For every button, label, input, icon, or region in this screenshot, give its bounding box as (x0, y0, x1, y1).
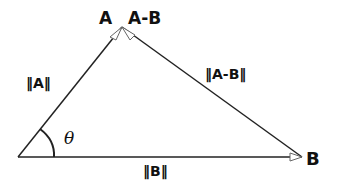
norm-ab-label: ‖A-B‖ (205, 67, 246, 81)
norm-b-label: ‖B‖ (143, 164, 168, 178)
arrowhead-a (110, 27, 122, 40)
arrowhead-ab (122, 27, 135, 40)
angle-theta-label: θ (64, 128, 74, 148)
norm-a-label: ‖A‖ (26, 76, 51, 90)
triangle-diagram (0, 0, 340, 189)
angle-arc (40, 129, 54, 157)
arrowhead-b (290, 153, 302, 161)
vertex-b-label: B (306, 150, 320, 168)
vector-ab-line (122, 27, 302, 157)
vertex-ab-label: A-B (128, 10, 161, 27)
vertex-a-label: A (99, 10, 112, 27)
